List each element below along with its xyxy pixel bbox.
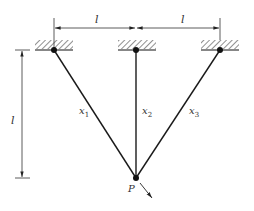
joint-p-icon xyxy=(133,175,139,181)
label-x1: x1 xyxy=(79,105,89,119)
member-x1 xyxy=(54,50,136,178)
dim-label-left: l xyxy=(95,13,99,26)
truss-diagram: l l x1 x2 x3 P l xyxy=(0,0,254,211)
vertical-dimension: l xyxy=(11,50,30,178)
pin-right-icon xyxy=(217,47,223,53)
pin-left-icon xyxy=(51,47,57,53)
label-x3: x3 xyxy=(189,105,199,119)
pin-middle-icon xyxy=(133,47,139,53)
load-arrow-icon xyxy=(140,183,152,198)
label-p: P xyxy=(127,183,135,194)
dim-label-right: l xyxy=(181,13,185,26)
label-x2: x2 xyxy=(142,105,152,119)
dim-label-vertical: l xyxy=(11,114,15,127)
